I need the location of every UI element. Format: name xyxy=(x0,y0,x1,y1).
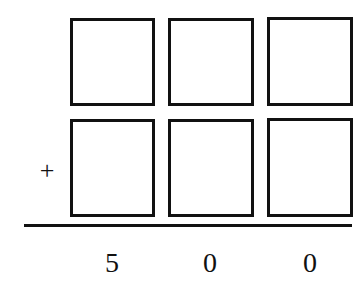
answer-box-row2-hundreds[interactable] xyxy=(70,119,155,217)
answer-box-row2-tens[interactable] xyxy=(168,119,254,217)
sum-line xyxy=(24,224,352,227)
answer-box-row1-hundreds[interactable] xyxy=(70,18,155,106)
answer-box-row1-tens[interactable] xyxy=(168,18,254,106)
answer-box-row1-ones[interactable] xyxy=(267,17,353,106)
sum-digit-ones: 0 xyxy=(295,248,325,278)
sum-digit-tens: 0 xyxy=(195,248,225,278)
answer-box-row2-ones[interactable] xyxy=(267,118,353,217)
plus-operator: + xyxy=(36,158,58,184)
sum-digit-hundreds: 5 xyxy=(97,248,127,278)
